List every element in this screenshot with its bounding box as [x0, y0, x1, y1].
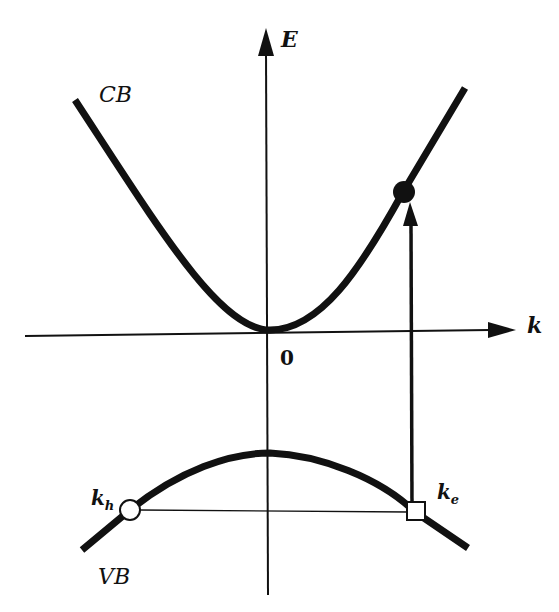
- k-axis-label: k: [527, 314, 542, 336]
- electron-origin-square: [407, 502, 425, 520]
- hole-k-label: kh: [91, 488, 114, 512]
- band-diagram-canvas: [0, 0, 559, 612]
- energy-axis: [266, 50, 268, 595]
- conduction-band-label: CB: [99, 84, 132, 106]
- valence-band-label: VB: [98, 566, 130, 588]
- energy-axis-arrowhead: [258, 28, 274, 56]
- conduction-band-curve: [75, 88, 465, 330]
- electron-k-label: ke: [437, 482, 459, 506]
- electron-dot: [393, 181, 415, 203]
- origin-label: 0: [280, 348, 294, 368]
- k-axis-arrowhead: [488, 322, 516, 338]
- transition-arrow-line: [411, 225, 412, 505]
- hole-k-label-sub: h: [105, 498, 114, 513]
- hole-k-label-main: k: [91, 486, 105, 510]
- electron-k-label-main: k: [437, 480, 451, 504]
- hole-circle: [120, 500, 140, 520]
- equal-energy-line: [140, 510, 408, 512]
- transition-arrowhead: [403, 202, 418, 226]
- energy-axis-label: E: [281, 28, 298, 50]
- electron-k-label-sub: e: [451, 492, 459, 507]
